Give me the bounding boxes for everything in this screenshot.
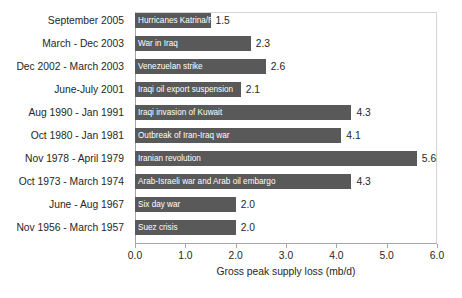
x-tick bbox=[286, 244, 287, 248]
bar-row[interactable]: Six day war 2.0 bbox=[135, 197, 437, 212]
bars-layer: Hurricanes Katrina/Rita 1.5 War in Iraq … bbox=[135, 12, 437, 244]
x-tick-label: 5.0 bbox=[367, 250, 407, 261]
bar-chart: September 2005 March - Dec 2003 Dec 2002… bbox=[0, 0, 462, 298]
category-label: Nov 1956 - March 1957 bbox=[16, 221, 124, 235]
x-axis-title: Gross peak supply loss (mb/d) bbox=[135, 266, 437, 277]
category-label: Oct 1973 - March 1974 bbox=[19, 175, 124, 189]
bar-row[interactable]: Venezuelan strike 2.6 bbox=[135, 59, 437, 74]
bar-row[interactable]: Arab-Israeli war and Arab oil embargo 4.… bbox=[135, 174, 437, 189]
x-tick-label: 0.0 bbox=[115, 250, 155, 261]
category-label: June-July 2001 bbox=[54, 83, 124, 97]
bar-label: Hurricanes Katrina/Rita bbox=[138, 13, 223, 28]
bar-row[interactable]: Iranian revolution 5.6 bbox=[135, 151, 437, 166]
x-tick bbox=[185, 244, 186, 248]
bar-row[interactable]: Iraqi invasion of Kuwait 4.3 bbox=[135, 105, 437, 120]
bar-row[interactable]: War in Iraq 2.3 bbox=[135, 36, 437, 51]
bar-row[interactable]: Iraqi oil export suspension 2.1 bbox=[135, 82, 437, 97]
category-label: June - Aug 1967 bbox=[49, 198, 124, 212]
bar-value-label: 2.6 bbox=[271, 59, 285, 74]
bar-label: War in Iraq bbox=[138, 36, 178, 51]
category-label: September 2005 bbox=[48, 14, 124, 28]
x-tick bbox=[336, 244, 337, 248]
bar-row[interactable]: Outbreak of Iran-Iraq war 4.1 bbox=[135, 128, 437, 143]
bar-value-label: 4.3 bbox=[356, 174, 370, 189]
bar-value-label: 4.1 bbox=[346, 128, 360, 143]
bar-label: Suez crisis bbox=[138, 220, 178, 235]
x-axis-ticks bbox=[135, 244, 437, 249]
category-label: March - Dec 2003 bbox=[42, 37, 124, 51]
x-tick-label: 1.0 bbox=[165, 250, 205, 261]
bar-label: Iraqi oil export suspension bbox=[138, 82, 233, 97]
category-axis-labels: September 2005 March - Dec 2003 Dec 2002… bbox=[0, 12, 131, 244]
x-tick-label: 3.0 bbox=[266, 250, 306, 261]
x-tick-label: 2.0 bbox=[216, 250, 256, 261]
bar-value-label: 1.5 bbox=[216, 13, 230, 28]
bar-label: Outbreak of Iran-Iraq war bbox=[138, 128, 229, 143]
bar-label: Arab-Israeli war and Arab oil embargo bbox=[138, 174, 275, 189]
category-label: Aug 1990 - Jan 1991 bbox=[28, 106, 124, 120]
x-tick bbox=[135, 244, 136, 248]
category-label: Nov 1978 - April 1979 bbox=[25, 152, 124, 166]
bar-label: Iranian revolution bbox=[138, 151, 201, 166]
bar-label: Six day war bbox=[138, 197, 180, 212]
bar-row[interactable]: Suez crisis 2.0 bbox=[135, 220, 437, 235]
bar-value-label: 2.3 bbox=[256, 36, 270, 51]
x-axis-tick-labels: 0.01.02.03.04.05.06.0 bbox=[135, 250, 437, 264]
bar-value-label: 2.1 bbox=[246, 82, 260, 97]
bar-value-label: 4.3 bbox=[356, 105, 370, 120]
category-label: Dec 2002 - March 2003 bbox=[16, 60, 124, 74]
x-tick-label: 6.0 bbox=[417, 250, 457, 261]
x-tick bbox=[236, 244, 237, 248]
bar-value-label: 5.6 bbox=[422, 151, 436, 166]
bar-label: Venezuelan strike bbox=[138, 59, 203, 74]
bar-value-label: 2.0 bbox=[241, 197, 255, 212]
category-label: Oct 1980 - Jan 1981 bbox=[31, 129, 124, 143]
bar-value-label: 2.0 bbox=[241, 220, 255, 235]
bar-label: Iraqi invasion of Kuwait bbox=[138, 105, 222, 120]
x-tick-label: 4.0 bbox=[316, 250, 356, 261]
bar-row[interactable]: Hurricanes Katrina/Rita 1.5 bbox=[135, 13, 437, 28]
x-tick bbox=[387, 244, 388, 248]
x-tick bbox=[437, 244, 438, 248]
